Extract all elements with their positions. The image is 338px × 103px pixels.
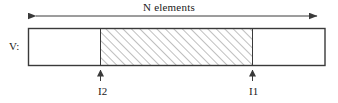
array-name-label: V:	[9, 41, 19, 52]
array-range-diagram: N elements V: I2 I1	[0, 0, 338, 103]
pointer-label-i1: I1	[249, 86, 258, 97]
pointer-label-i2: I2	[98, 86, 107, 97]
hatched-region	[100, 29, 252, 66]
diagram-canvas	[0, 0, 338, 103]
dimension-label: N elements	[0, 2, 338, 13]
